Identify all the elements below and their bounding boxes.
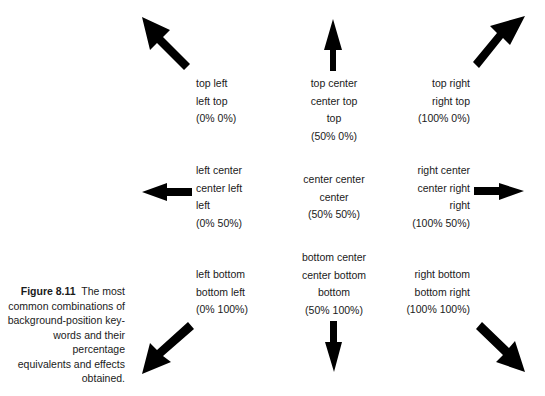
label-bottom-right: right bottom bottom right (100% 100%)	[390, 266, 470, 319]
label-bottom-left: left bottom bottom left (0% 100%)	[196, 266, 248, 319]
keyword-line: top	[290, 110, 378, 128]
keyword-line: right top	[390, 93, 470, 111]
keyword-line: bottom center	[286, 249, 382, 267]
label-center-center: center center center (50% 50%)	[290, 171, 378, 224]
figure-label: Figure 8.11	[21, 285, 76, 297]
percentage-line: (100% 100%)	[390, 301, 470, 319]
keyword-line: left bottom	[196, 266, 248, 284]
keyword-line: top right	[390, 75, 470, 93]
label-bottom-center: bottom center center bottom bottom (50% …	[286, 249, 382, 319]
keyword-line: center bottom	[286, 267, 382, 285]
arrow-down-left-icon	[142, 322, 194, 374]
percentage-line: (50% 50%)	[290, 206, 378, 224]
keyword-line: left top	[196, 93, 236, 111]
caption-text: background-position key-	[0, 313, 125, 328]
caption-text: equivalents and effects	[0, 357, 125, 372]
keyword-line: left center	[196, 162, 242, 180]
keyword-line: center right	[390, 180, 470, 198]
arrow-up-right-icon	[473, 16, 525, 68]
percentage-line: (0% 100%)	[196, 301, 248, 319]
caption-text: obtained.	[0, 371, 125, 386]
keyword-line: center left	[196, 180, 242, 198]
percentage-line: (0% 50%)	[196, 215, 242, 233]
label-top-right: top right right top (100% 0%)	[390, 75, 470, 128]
label-center-right: right center center right right (100% 50…	[390, 162, 470, 232]
caption-text: common combinations of	[0, 299, 125, 314]
keyword-line: right bottom	[390, 266, 470, 284]
percentage-line: (50% 0%)	[290, 128, 378, 146]
keyword-line: bottom right	[390, 284, 470, 302]
arrow-down-icon	[325, 321, 342, 372]
keyword-line: center	[290, 189, 378, 207]
keyword-line: right center	[390, 162, 470, 180]
keyword-line: top center	[290, 75, 378, 93]
keyword-line: center center	[290, 171, 378, 189]
label-top-center: top center center top top (50% 0%)	[290, 75, 378, 145]
label-center-left: left center center left left (0% 50%)	[196, 162, 242, 232]
caption-line-1: Figure 8.11 The most	[0, 284, 125, 299]
caption-text: The most	[81, 285, 125, 297]
arrow-up-left-icon	[142, 17, 190, 70]
keyword-line: center top	[290, 93, 378, 111]
keyword-line: top left	[196, 75, 236, 93]
percentage-line: (50% 100%)	[286, 302, 382, 320]
arrow-down-right-icon	[476, 322, 525, 372]
keyword-line: bottom left	[196, 284, 248, 302]
keyword-line: right	[390, 197, 470, 215]
arrow-right-icon	[474, 183, 524, 200]
caption-text: words and their percentage	[0, 328, 125, 357]
keyword-line: bottom	[286, 284, 382, 302]
label-top-left: top left left top (0% 0%)	[196, 75, 236, 128]
percentage-line: (0% 0%)	[196, 110, 236, 128]
figure-caption: Figure 8.11 The most common combinations…	[0, 284, 125, 386]
arrow-left-icon	[142, 183, 192, 201]
keyword-line: left	[196, 197, 242, 215]
arrow-up-icon	[324, 19, 342, 71]
percentage-line: (100% 50%)	[390, 215, 470, 233]
percentage-line: (100% 0%)	[390, 110, 470, 128]
